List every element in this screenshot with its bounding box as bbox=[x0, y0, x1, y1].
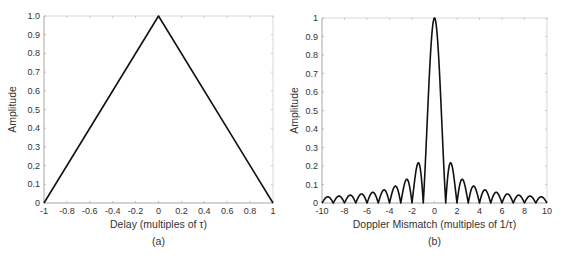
chart-b-x-tick-label: 4 bbox=[477, 206, 482, 216]
chart-a-y-tick-label: 1.0 bbox=[27, 11, 40, 21]
chart-a-y-tick-label: 0.1 bbox=[27, 179, 40, 189]
chart-a-x-tick-label: -0.2 bbox=[128, 206, 144, 216]
chart-a-x-label: Delay (multiples of τ) bbox=[110, 218, 207, 230]
chart-b-x-tick-label: -2 bbox=[408, 206, 416, 216]
chart-b-x-tick-label: 6 bbox=[499, 206, 504, 216]
chart-b-y-tick-label: 0.6 bbox=[305, 87, 318, 97]
chart-a-x-tick-label: 0.2 bbox=[175, 206, 188, 216]
chart-b-caption: (b) bbox=[428, 235, 441, 247]
chart-b-x-tick-label: -4 bbox=[385, 206, 393, 216]
chart-a-data-line bbox=[44, 16, 273, 203]
chart-a-caption: (a) bbox=[152, 235, 165, 247]
chart-a-x-tick-label: 0.8 bbox=[244, 206, 257, 216]
chart-a-y-tick-label: 0.3 bbox=[27, 142, 40, 152]
chart-a-plot-area bbox=[44, 16, 273, 203]
chart-a-y-tick-label: 0.2 bbox=[27, 161, 40, 171]
chart-a-x-tick-label: 0.4 bbox=[198, 206, 211, 216]
chart-a-y-tick-label: 0.8 bbox=[27, 48, 40, 58]
chart-b-x-tick-label: 0 bbox=[432, 206, 437, 216]
chart-b-x-label: Doppler Mismatch (multiples of 1/τ) bbox=[353, 218, 516, 230]
chart-b-y-tick-label: 0.1 bbox=[305, 180, 318, 190]
chart-a-y-label: Amplitude bbox=[6, 86, 18, 133]
chart-b-y-tick-label: 0.3 bbox=[305, 143, 318, 153]
chart-a-y-tick-label: 0 bbox=[35, 198, 40, 208]
chart-b-x-tick-label: -6 bbox=[363, 206, 371, 216]
chart-a-y-tick-label: 0.5 bbox=[27, 105, 40, 115]
chart-a-x-tick-label: 0 bbox=[156, 206, 161, 216]
chart-a-x-tick-label: -0.6 bbox=[82, 206, 98, 216]
figure: -1-0.8-0.6-0.4-0.200.20.40.60.8100.10.20… bbox=[0, 0, 562, 259]
chart-b-x-tick-label: 8 bbox=[522, 206, 527, 216]
chart-b-y-tick-label: 0.4 bbox=[305, 124, 318, 134]
chart-b-data-line bbox=[322, 18, 547, 203]
chart-b-x-tick-label: 10 bbox=[542, 206, 552, 216]
chart-b-plot-area bbox=[322, 18, 547, 203]
chart-a-y-tick-label: 0.6 bbox=[27, 86, 40, 96]
chart-b-y-tick-label: 1 bbox=[313, 13, 318, 23]
chart-a-y-tick-label: 0.4 bbox=[27, 123, 40, 133]
chart-b-y-label: Amplitude bbox=[288, 87, 300, 134]
chart-a-x-tick-label: -1 bbox=[40, 206, 48, 216]
chart-a-x-tick-label: 1 bbox=[270, 206, 275, 216]
chart-b-y-tick-label: 0.8 bbox=[305, 50, 318, 60]
chart-a-x-tick-label: -0.4 bbox=[105, 206, 121, 216]
chart-b-y-tick-label: 0.9 bbox=[305, 32, 318, 42]
chart-b-y-tick-label: 0 bbox=[313, 198, 318, 208]
chart-b-y-tick-label: 0.5 bbox=[305, 106, 318, 116]
chart-a-y-tick-label: 0.9 bbox=[27, 30, 40, 40]
chart-a-x-tick-label: 0.6 bbox=[221, 206, 234, 216]
chart-b-y-tick-label: 0.7 bbox=[305, 69, 318, 79]
chart-b-x-tick-label: -8 bbox=[340, 206, 348, 216]
chart-b-x-tick-label: 2 bbox=[454, 206, 459, 216]
chart-a-y-tick-label: 0.7 bbox=[27, 67, 40, 77]
chart-a-x-tick-label: -0.8 bbox=[59, 206, 75, 216]
chart-b-y-tick-label: 0.2 bbox=[305, 161, 318, 171]
